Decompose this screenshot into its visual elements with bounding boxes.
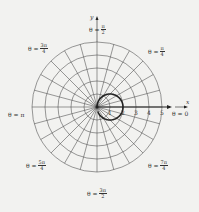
grid-spoke bbox=[51, 107, 97, 153]
grid-spoke bbox=[80, 107, 97, 170]
x-axis-arrow-icon bbox=[184, 106, 188, 109]
label-theta-pi: θ = π bbox=[8, 111, 24, 118]
tick-1: 1 bbox=[108, 109, 112, 116]
label-theta-0: θ = 0 bbox=[172, 110, 188, 117]
origin-point bbox=[96, 106, 99, 109]
grid-spoke bbox=[97, 90, 160, 107]
label-theta-pi-over-4: θ = π4 bbox=[148, 46, 165, 57]
y-axis-arrow-icon bbox=[96, 16, 99, 20]
label-theta-3pi-over-2: θ = 3π2 bbox=[87, 188, 107, 199]
grid-spoke bbox=[97, 61, 143, 107]
x-axis-label: x bbox=[186, 98, 189, 105]
tick-5: 5 bbox=[160, 109, 164, 116]
grid-spoke bbox=[97, 107, 114, 170]
label-theta-pi-over-2: θ = π2 bbox=[89, 24, 106, 35]
grid-spoke bbox=[80, 44, 97, 107]
grid-spoke bbox=[41, 107, 97, 140]
tick-4: 4 bbox=[147, 109, 151, 116]
tick-3: 3 bbox=[134, 109, 138, 116]
grid-spoke bbox=[97, 51, 130, 107]
label-theta-3pi-over-4: θ = 3π4 bbox=[28, 43, 48, 54]
grid-spoke bbox=[41, 75, 97, 108]
grid-spoke bbox=[34, 107, 97, 124]
grid-spoke bbox=[65, 107, 98, 163]
label-theta-5pi-over-4: θ = 5π4 bbox=[26, 160, 46, 171]
y-axis-label: y bbox=[90, 13, 93, 20]
grid-spoke bbox=[97, 75, 153, 108]
label-theta-7pi-over-4: θ = 7π4 bbox=[148, 160, 168, 171]
polar-axis-arrow-icon bbox=[167, 105, 172, 109]
grid-spoke bbox=[34, 90, 97, 107]
grid-spoke bbox=[65, 51, 98, 107]
tick-2: 2 bbox=[121, 109, 125, 116]
grid-spoke bbox=[97, 107, 153, 140]
grid-spoke bbox=[51, 61, 97, 107]
grid-spoke bbox=[97, 44, 114, 107]
